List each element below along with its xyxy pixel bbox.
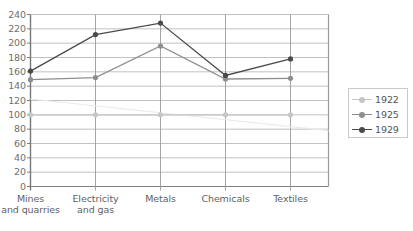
- x-tick-label-0: Mines and quarries: [0, 193, 68, 215]
- data-point-1922-3: [223, 112, 228, 117]
- legend-label-2: 1929: [375, 124, 399, 135]
- x-tick-label-2: Metals: [124, 193, 198, 204]
- legend-item-2[interactable]: 1929: [352, 122, 407, 137]
- legend-label-0: 1922: [375, 94, 399, 105]
- x-tick-label-3: Chemicals: [189, 193, 263, 204]
- data-point-1929-2: [158, 21, 163, 26]
- data-point-1922-2: [158, 112, 163, 117]
- y-tick-label-40: 40: [0, 153, 26, 163]
- legend-marker-icon-2: [352, 125, 372, 134]
- y-tick-label-140: 140: [0, 81, 26, 91]
- data-point-1929-1: [93, 32, 98, 37]
- legend-marker-icon-0: [352, 95, 372, 104]
- legend-item-1[interactable]: 1925: [352, 107, 407, 122]
- y-tick-label-240: 240: [0, 10, 26, 20]
- y-tick-label-100: 100: [0, 110, 26, 120]
- data-point-1925-1: [93, 75, 98, 80]
- y-tick-label-80: 80: [0, 124, 26, 134]
- legend-label-1: 1925: [375, 109, 399, 120]
- data-point-1925-0: [28, 77, 33, 82]
- data-point-1929-4: [288, 56, 293, 61]
- data-point-1922-0: [28, 112, 33, 117]
- y-tick-label-160: 160: [0, 67, 26, 77]
- data-point-1929-3: [223, 73, 228, 78]
- x-tick-label-4: Textiles: [254, 193, 328, 204]
- y-tick-label-0: 0: [0, 182, 26, 192]
- line-chart: 020406080100120140160180200220240 Mines …: [0, 0, 413, 231]
- data-point-1925-4: [288, 76, 293, 81]
- chart-legend: 1922 1925 1929: [348, 88, 408, 138]
- y-tick-label-200: 200: [0, 38, 26, 48]
- x-tick-label-1: Electricity and gas: [59, 193, 133, 215]
- y-tick-label-120: 120: [0, 96, 26, 106]
- y-tick-label-60: 60: [0, 139, 26, 149]
- y-tick-label-180: 180: [0, 53, 26, 63]
- data-point-1925-2: [158, 43, 163, 48]
- legend-item-0[interactable]: 1922: [352, 92, 407, 107]
- y-tick-label-220: 220: [0, 24, 26, 34]
- legend-marker-icon-1: [352, 110, 372, 119]
- data-point-1922-4: [288, 112, 293, 117]
- y-tick-label-20: 20: [0, 167, 26, 177]
- data-point-1922-1: [93, 112, 98, 117]
- data-point-1929-0: [28, 69, 33, 74]
